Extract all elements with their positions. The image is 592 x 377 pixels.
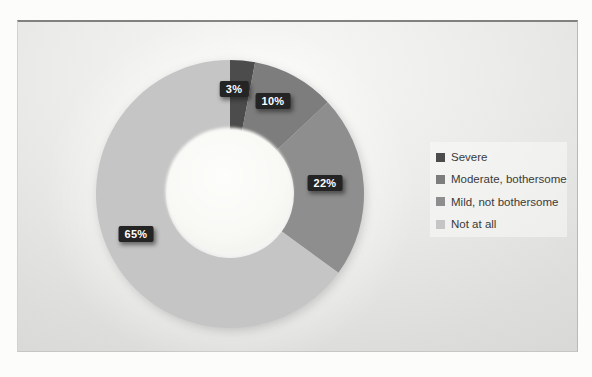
data-label-mild-not-bothersome: 22%: [308, 175, 343, 191]
data-label-moderate-bothersome: 10%: [256, 93, 291, 109]
legend-item-severe: Severe: [430, 146, 567, 168]
scanned-chart-page: 3%10%22%65% SevereModerate, bothersomeMi…: [0, 0, 592, 377]
legend-swatch-icon: [436, 220, 445, 229]
data-label-not-at-all: 65%: [119, 226, 154, 242]
donut-hole: [166, 128, 293, 255]
legend-swatch-icon: [436, 175, 445, 184]
data-label-severe: 3%: [220, 81, 249, 97]
legend: SevereModerate, bothersomeMild, not both…: [430, 142, 567, 237]
legend-item-mild-not-bothersome: Mild, not bothersome: [430, 191, 567, 213]
legend-item-label: Not at all: [451, 218, 496, 230]
legend-swatch-icon: [436, 153, 445, 162]
legend-swatch-icon: [436, 197, 445, 206]
legend-item-label: Mild, not bothersome: [451, 196, 558, 208]
legend-item-label: Severe: [451, 151, 487, 163]
legend-item-not-at-all: Not at all: [430, 213, 567, 235]
legend-item-label: Moderate, bothersome: [451, 173, 567, 185]
legend-item-moderate-bothersome: Moderate, bothersome: [430, 168, 567, 190]
chart-area: 3%10%22%65% SevereModerate, bothersomeMi…: [17, 20, 578, 352]
